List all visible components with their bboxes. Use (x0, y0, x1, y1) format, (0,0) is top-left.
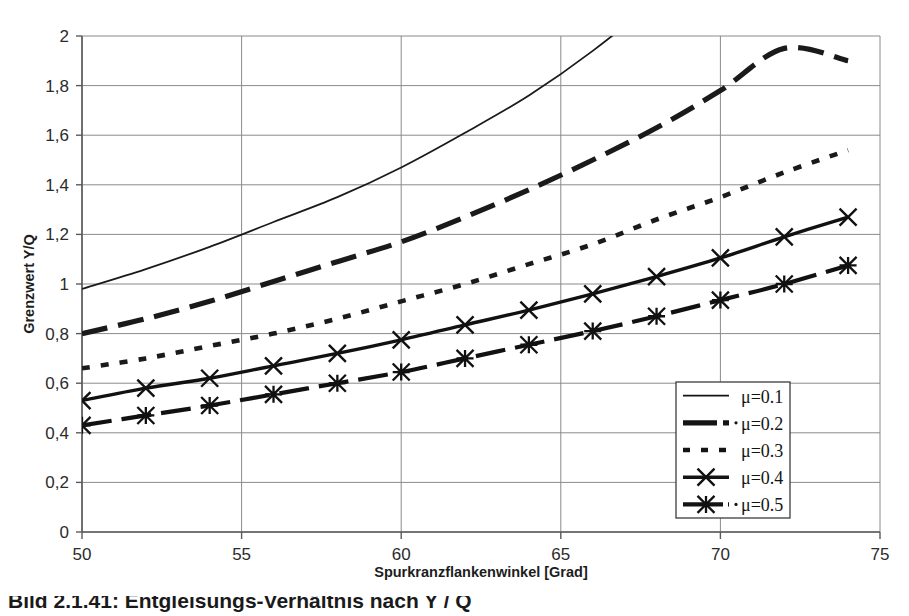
y-axis-tick-label: 1,4 (45, 176, 69, 195)
legend-dot-sample (734, 421, 737, 424)
data-point-marker-asterisk (712, 292, 729, 309)
x-axis-tick-label: 75 (871, 545, 890, 564)
x-axis-tick-label: 65 (551, 545, 570, 564)
data-point-marker-asterisk (698, 496, 715, 513)
legend-item-label: μ=0.4 (741, 468, 783, 488)
y-axis-tick-label: 0,2 (45, 473, 69, 492)
y-axis-tick-label: 0,6 (45, 374, 69, 393)
data-point-marker-asterisk (776, 276, 793, 293)
legend-item-3[interactable]: μ=0.3 (677, 436, 789, 463)
x-axis-tick-label: 50 (73, 545, 92, 564)
figure-caption: Bild 2.1.41: Entgleisungs-Verhältnis nac… (8, 596, 472, 613)
legend-item-2[interactable]: μ=0.2 (677, 409, 789, 436)
chart-background (0, 0, 909, 616)
y-axis-title: Grenzwert Y/Q (21, 234, 37, 334)
data-point-marker-asterisk (137, 407, 154, 424)
legend-item-label: μ=0.2 (741, 414, 783, 434)
y-axis-tick-label: 0,4 (45, 424, 69, 443)
y-axis-tick-label: 0 (60, 523, 69, 542)
y-axis-tick-label: 1,6 (45, 126, 69, 145)
data-point-marker-asterisk (457, 350, 474, 367)
derailment-limit-chart: 00,20,40,60,811,21,41,61,82 505560657075… (0, 0, 909, 616)
data-point-marker-asterisk (265, 386, 282, 403)
legend[interactable]: μ=0.1μ=0.2μ=0.3μ=0.4μ=0.5 (676, 382, 790, 518)
x-axis-tick-label: 60 (392, 545, 411, 564)
legend-item-1[interactable]: μ=0.1 (677, 382, 789, 409)
y-axis-tick-label: 1 (60, 275, 69, 294)
data-point-marker-asterisk (201, 397, 218, 414)
x-axis-tick-label: 55 (232, 545, 251, 564)
data-point-marker-asterisk (520, 336, 537, 353)
y-axis-tick-label: 1,8 (45, 77, 69, 96)
legend-item-label: μ=0.3 (741, 441, 783, 461)
legend-dot-sample (734, 503, 737, 506)
data-point-marker-asterisk (840, 257, 857, 274)
data-point-marker-asterisk (393, 364, 410, 381)
figure-root: 00,20,40,60,811,21,41,61,82 505560657075… (0, 0, 909, 616)
figure-caption-clip: Bild 2.1.41: Entgleisungs-Verhältnis nac… (0, 596, 909, 616)
x-axis-title: Spurkranzflankenwinkel [Grad] (374, 564, 588, 580)
x-axis-tick-label: 70 (711, 545, 730, 564)
legend-item-4[interactable]: μ=0.4 (677, 464, 789, 491)
legend-item-5[interactable]: μ=0.5 (677, 491, 789, 518)
data-point-marker-asterisk (329, 375, 346, 392)
y-axis-tick-label: 0,8 (45, 325, 69, 344)
y-axis-tick-label: 2 (60, 27, 69, 46)
y-axis-tick-label: 1,2 (45, 225, 69, 244)
data-point-marker-asterisk (584, 323, 601, 340)
data-point-marker-asterisk (648, 308, 665, 325)
legend-item-label: μ=0.5 (741, 495, 783, 515)
legend-item-label: μ=0.1 (741, 387, 783, 407)
